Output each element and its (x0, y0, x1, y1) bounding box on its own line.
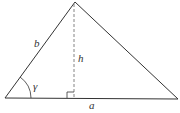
label-side-a: a (89, 99, 95, 111)
label-angle-gamma: γ (33, 80, 38, 92)
right-angle-marker (67, 92, 74, 98)
side-c-line (75, 2, 178, 99)
triangle-svg: b h γ a (0, 0, 180, 113)
label-height-h: h (78, 52, 84, 64)
label-side-b: b (34, 37, 40, 49)
side-b-line (5, 2, 75, 98)
triangle-diagram: b h γ a (0, 0, 180, 113)
angle-gamma-arc (20, 77, 31, 98)
